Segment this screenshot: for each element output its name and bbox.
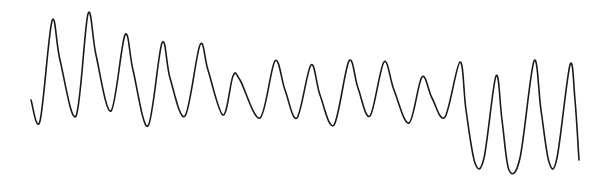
waveform-figure — [0, 0, 610, 187]
waveform-trace — [31, 12, 579, 174]
waveform-plot — [0, 0, 610, 187]
